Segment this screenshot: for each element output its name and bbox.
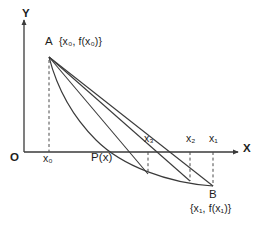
tick-label-x3: x₃ (144, 133, 154, 144)
point-a-coordinate: {x₀, f(x₀)} (59, 36, 102, 47)
point-b-coordinate: {x₁, f(x₁)} (190, 203, 231, 214)
diagram-canvas (0, 0, 264, 227)
point-a-label: A (45, 36, 53, 48)
secant-line-ab (49, 57, 213, 186)
tick-label-x0: x₀ (43, 153, 53, 164)
figure-root: Y X O A {x₀, f(x₀)} B {x₁, f(x₁)} x₀ P(x… (0, 0, 264, 227)
tick-label-x2: x₂ (186, 133, 196, 144)
root-label: P(x) (91, 152, 112, 164)
tick-label-x1: x₁ (209, 133, 218, 144)
secant-line-x2 (49, 57, 190, 181)
origin-label: O (10, 152, 19, 164)
x-axis-label: X (243, 143, 251, 155)
y-axis-label: Y (22, 8, 30, 20)
point-b-label: B (209, 189, 217, 201)
